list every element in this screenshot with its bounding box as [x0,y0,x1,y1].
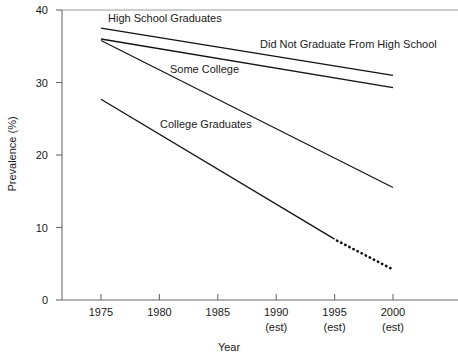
x-tick-label-1995: 1995 [312,306,358,318]
y-tick-marks [56,10,62,300]
y-axis-title: Prevalence (%) [6,109,18,199]
x-axis-title: Year [0,341,458,353]
x-tick-marks [101,294,393,300]
y-tick-label-10: 10 [20,222,48,234]
series-line-some-college [101,41,393,188]
y-tick-label-0: 0 [20,294,48,306]
series-label-some-college: Some College [170,63,239,75]
series-label-high-school-graduates: High School Graduates [108,12,222,24]
series-line-high-school-graduates [101,28,393,75]
x-tick-label-1980: 1980 [136,306,182,318]
y-tick-label-30: 30 [20,77,48,89]
x-tick-label-2000: 2000 [370,306,416,318]
y-tick-label-20: 20 [20,149,48,161]
chart-container: 40 30 20 10 0 1975 1980 1985 1990 1995 2… [0,0,458,359]
x-tick-sublabel-1995: (est) [312,321,358,333]
x-tick-sublabel-1990: (est) [253,321,299,333]
x-tick-label-1990: 1990 [253,306,299,318]
x-tick-sublabel-2000: (est) [370,321,416,333]
x-tick-label-1985: 1985 [195,306,241,318]
series-label-college-graduates: College Graduates [160,118,252,130]
series-line-college-graduates-dotted [337,241,393,270]
y-tick-label-40: 40 [20,4,48,16]
x-tick-label-1975: 1975 [78,306,124,318]
series-label-did-not-graduate: Did Not Graduate From High School [260,38,437,50]
